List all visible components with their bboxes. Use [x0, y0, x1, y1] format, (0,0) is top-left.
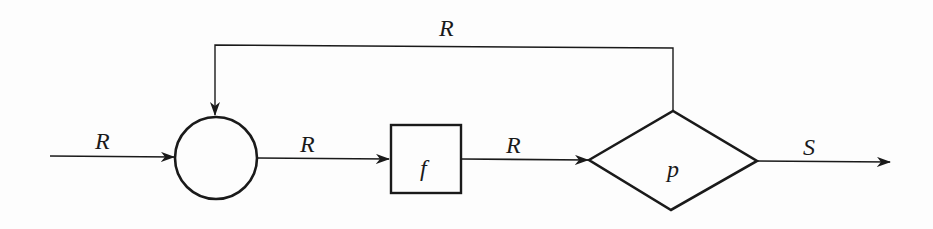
p-node-label: p — [665, 156, 679, 182]
junction-to-f-label: R — [299, 131, 315, 157]
f-node-label: f — [420, 155, 430, 181]
feedback-edge-label: R — [438, 15, 454, 41]
junction-to-f-edge: R — [257, 131, 389, 159]
output-edge: S — [757, 134, 890, 162]
input-edge: R — [50, 128, 174, 157]
flow-diagram: R R R f R p — [0, 0, 933, 229]
f-to-p-label: R — [505, 132, 521, 158]
f-to-p-edge: R — [461, 132, 588, 160]
junction-node — [175, 117, 257, 199]
f-node: f — [391, 125, 461, 193]
input-edge-label: R — [94, 128, 110, 154]
feedback-edge: R — [215, 15, 673, 115]
output-edge-label: S — [803, 134, 815, 160]
diagram-svg: R R R f R p — [0, 0, 933, 229]
p-node: p — [589, 111, 757, 210]
